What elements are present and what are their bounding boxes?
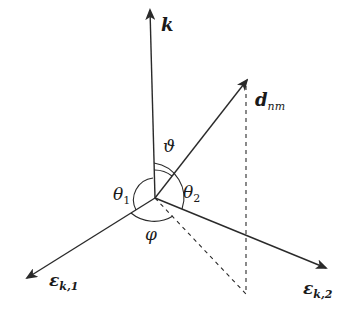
theta2-label: θ2 (183, 182, 200, 205)
dnm-label-subscript: nm (268, 100, 286, 113)
eps-k2-subscript: k,2 (313, 288, 332, 301)
varphi-arc (131, 213, 173, 221)
theta2-main: θ (183, 182, 193, 202)
eps-k2-vector (155, 198, 326, 268)
theta1-subscript: 1 (123, 194, 130, 207)
dnm-label: dnm (255, 89, 285, 113)
eps-k2-main: ε (303, 278, 313, 298)
k-label: k (161, 14, 173, 35)
dnm-label-main: d (255, 89, 268, 110)
theta2-subscript: 2 (193, 192, 200, 205)
eps-k1-label: εk,1 (49, 270, 78, 293)
vartheta-label: ϑ (163, 136, 175, 156)
theta1-label: θ1 (113, 184, 130, 207)
theta1-main: θ (113, 184, 123, 204)
vector-diagram: k dnm ϑ θ1 θ2 φ εk,1 εk,2 (0, 0, 354, 317)
eps-k2-label: εk,2 (303, 278, 333, 301)
vartheta-arc (154, 170, 172, 176)
varphi-label: φ (145, 224, 157, 244)
eps-k1-main: ε (49, 270, 59, 290)
eps-k1-subscript: k,1 (59, 280, 78, 293)
dnm-plane-projection (155, 198, 246, 294)
